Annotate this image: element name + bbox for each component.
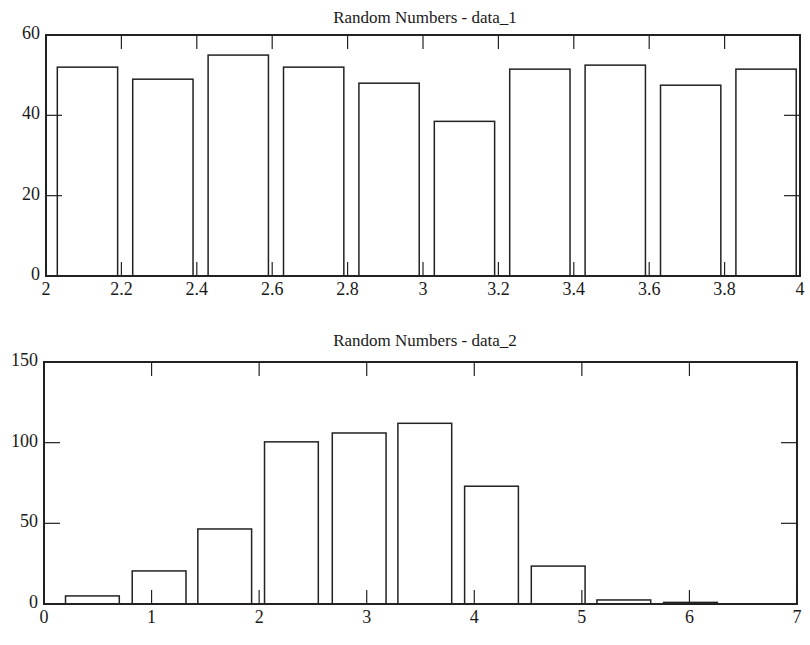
y-tick-label: 100 — [0, 431, 38, 452]
histogram-bar — [531, 566, 585, 604]
chart-title: Random Numbers - data_1 — [0, 8, 810, 28]
x-tick-label: 5 — [562, 607, 602, 628]
x-tick-label: 6 — [669, 607, 709, 628]
histogram-bar — [332, 433, 386, 604]
histogram-bar — [198, 529, 252, 604]
histogram-bar — [133, 79, 193, 276]
histogram-bar — [132, 571, 186, 604]
x-tick-label: 7 — [777, 607, 810, 628]
plot-area — [0, 0, 810, 310]
histogram-bar — [66, 596, 120, 604]
x-tick-label: 2.2 — [101, 279, 141, 300]
y-tick-label: 60 — [0, 23, 40, 44]
y-tick-label: 150 — [0, 350, 38, 371]
y-tick-label: 20 — [0, 184, 40, 205]
histogram-data-2: Random Numbers - data_2 0123456705010015… — [0, 325, 810, 645]
axes-frame — [44, 362, 797, 604]
histogram-bar — [265, 442, 319, 604]
x-tick-label: 2 — [239, 607, 279, 628]
axes-frame — [46, 35, 800, 276]
plot-area — [0, 325, 810, 645]
x-tick-label: 1 — [132, 607, 172, 628]
x-tick-label: 3 — [403, 279, 443, 300]
chart-title: Random Numbers - data_2 — [0, 331, 810, 351]
histogram-bar — [284, 67, 344, 276]
y-tick-label: 40 — [0, 103, 40, 124]
histogram-bar — [434, 121, 494, 276]
y-tick-label: 50 — [0, 511, 38, 532]
x-tick-label: 3.4 — [554, 279, 594, 300]
histogram-bar — [510, 69, 570, 276]
x-tick-label: 4 — [454, 607, 494, 628]
y-tick-label: 0 — [0, 264, 40, 285]
histogram-bar — [736, 69, 796, 276]
x-tick-label: 2.4 — [177, 279, 217, 300]
x-tick-label: 3.2 — [478, 279, 518, 300]
histogram-data-1: Random Numbers - data_1 22.22.42.62.833.… — [0, 0, 810, 310]
x-tick-label: 3.8 — [705, 279, 745, 300]
histogram-bar — [398, 423, 452, 604]
histogram-bar — [359, 83, 419, 276]
x-tick-label: 3.6 — [629, 279, 669, 300]
x-tick-label: 2.8 — [328, 279, 368, 300]
histogram-bar — [57, 67, 117, 276]
histogram-bar — [661, 85, 721, 276]
histogram-bar — [465, 486, 519, 604]
histogram-bar — [208, 55, 268, 276]
x-tick-label: 4 — [780, 279, 810, 300]
x-tick-label: 3 — [347, 607, 387, 628]
histogram-bar — [585, 65, 645, 276]
y-tick-label: 0 — [0, 592, 38, 613]
x-tick-label: 2.6 — [252, 279, 292, 300]
